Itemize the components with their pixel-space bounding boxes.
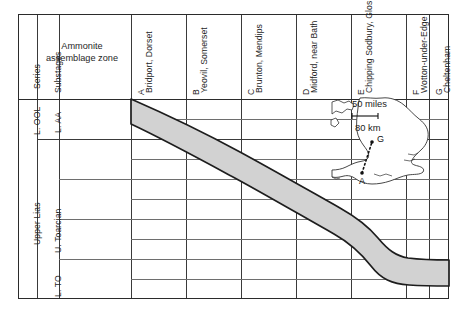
- column-divider-c: [296, 15, 297, 298]
- map-scale-km: 80 km: [355, 122, 381, 133]
- substage-label-l-to: L. TO: [53, 275, 63, 297]
- header-locality-e: Chipping Sodbury, Glos.: [364, 0, 374, 93]
- substage-label-l-aa: L. AA: [53, 112, 63, 133]
- map-point-a: A: [359, 176, 365, 186]
- series-label-lower-oolite: L. OOL: [32, 107, 42, 135]
- header-locality-f: Wotton-under-Edge: [419, 16, 429, 93]
- header-locality-g: Cheltenham: [442, 46, 452, 93]
- key-letter-g: G: [434, 88, 444, 95]
- key-letter-c: C: [246, 89, 256, 95]
- column-divider-b: [241, 15, 242, 298]
- header-locality-c: Brunton, Mendips: [254, 24, 264, 93]
- series-label-upper-lias: Upper Lias: [32, 202, 42, 245]
- map-outline-icon: [330, 96, 449, 208]
- map-point-g: G: [377, 134, 384, 144]
- column-divider-series: [37, 15, 38, 298]
- header-locality-d: Midford, near Bath: [309, 21, 319, 94]
- key-letter-a: A: [136, 89, 146, 95]
- header-series: Series: [32, 64, 42, 89]
- map-inset-southern-england: 50 miles 80 km G A: [330, 96, 449, 208]
- key-letter-e: E: [356, 89, 366, 95]
- column-divider-a: [186, 15, 187, 298]
- map-scale-miles: 50 miles: [352, 98, 387, 109]
- key-letter-b: B: [191, 89, 201, 95]
- grid-line-7: [131, 239, 448, 240]
- key-letter-d: D: [301, 89, 311, 95]
- stratigraphic-diagram: Series Substages Ammonite assemblage zon…: [0, 0, 467, 313]
- grid-line-6: [59, 219, 448, 220]
- column-divider-zone: [131, 15, 132, 298]
- header-locality-b: Yeovil, Somerset: [199, 27, 209, 93]
- grid-line-8: [59, 259, 448, 260]
- substage-label-u-toarcian: U. Toarcian: [53, 209, 63, 253]
- header-locality-a: Bridport, Dorset: [144, 31, 154, 93]
- header-ammonite-zone: Ammonite assemblage zone: [39, 41, 125, 64]
- key-letter-f: F: [411, 90, 421, 95]
- grid-line-9: [131, 279, 448, 280]
